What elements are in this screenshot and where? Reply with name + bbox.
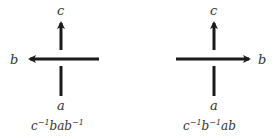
- label-a: a: [57, 98, 65, 113]
- label-b: b: [258, 52, 266, 67]
- label-b: b: [10, 52, 18, 67]
- label-c: c: [210, 3, 218, 18]
- caption-word: c−1bab−1: [31, 118, 84, 133]
- label-a: a: [210, 98, 218, 113]
- label-c: c: [57, 3, 65, 18]
- crossing-diagram-right: c b a c−1b−1ab: [176, 3, 266, 133]
- crossing-diagrams: c b a c−1bab−1 c b a c−1b−1ab: [0, 0, 278, 139]
- caption-word: c−1b−1ab: [183, 118, 236, 133]
- crossing-diagram-left: c b a c−1bab−1: [10, 3, 99, 133]
